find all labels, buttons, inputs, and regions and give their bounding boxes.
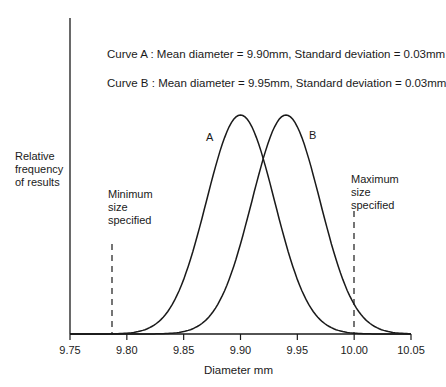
x-ticks (70, 334, 411, 340)
curve-b-label: B (309, 129, 316, 142)
x-tick-label: 10.05 (397, 344, 425, 356)
x-tick-label: 9.75 (59, 344, 80, 356)
min-size-label: Minimum size specified (108, 188, 153, 227)
y-label-line: Relative (15, 150, 63, 163)
y-axis-label: Relative frequency of results (15, 150, 63, 189)
min-label-line: Minimum (108, 188, 153, 201)
x-tick-label: 10.00 (340, 344, 368, 356)
curve-a-note: Curve A : Mean diameter = 9.90mm, Standa… (107, 48, 445, 60)
x-tick-label: 9.90 (230, 344, 251, 356)
curve-a-label: A (206, 131, 213, 144)
y-label-line: of results (15, 176, 63, 189)
x-tick-label: 9.80 (116, 344, 137, 356)
y-label-line: frequency (15, 163, 63, 176)
max-label-line: specified (351, 199, 399, 212)
max-label-line: size (351, 186, 399, 199)
max-label-line: Maximum (351, 173, 399, 186)
min-label-line: specified (108, 214, 153, 227)
min-label-line: size (108, 201, 153, 214)
x-tick-label: 9.85 (173, 344, 194, 356)
x-tick-label: 9.95 (287, 344, 308, 356)
max-size-label: Maximum size specified (351, 173, 399, 212)
x-axis-label: Diameter mm (204, 364, 273, 377)
curve-b-note: Curve B : Mean diameter = 9.95mm, Standa… (107, 77, 446, 89)
